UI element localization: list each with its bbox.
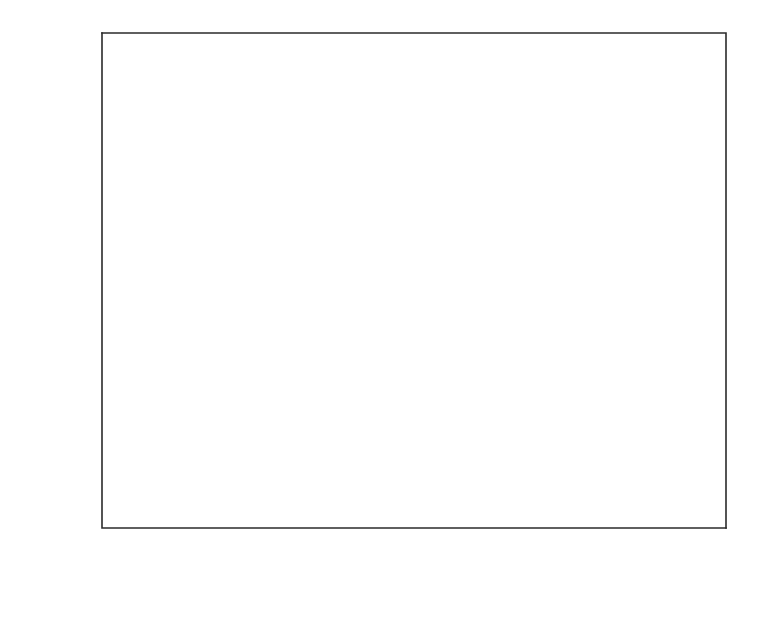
chart-background <box>0 0 783 618</box>
chart-figure <box>0 0 783 618</box>
line-chart-svg <box>0 0 783 618</box>
